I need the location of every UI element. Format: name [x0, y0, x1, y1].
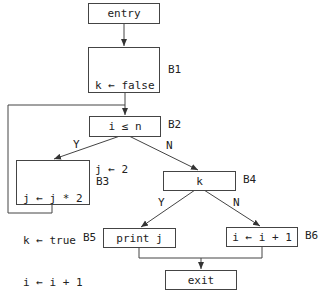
node-b1-label: B1 [168, 63, 181, 76]
node-b6: i ← i + 1 [226, 227, 298, 247]
node-b5: print j [103, 228, 176, 248]
node-b1: k ← false i ← 1 j ← 2 [88, 47, 160, 93]
node-b2-label: B2 [168, 118, 181, 131]
edge-label-b2-yes: Y [73, 138, 80, 151]
node-b4-text: k [196, 175, 203, 188]
edge-b4-b6 [204, 190, 260, 226]
node-entry: entry [88, 3, 160, 24]
b3-line-1: j ← j * 2 [23, 192, 89, 206]
b3-line-3: i ← i + 1 [23, 276, 89, 290]
node-b4-label: B4 [243, 173, 256, 186]
node-b2: i ≤ n [89, 116, 161, 137]
node-entry-text: entry [107, 7, 140, 20]
node-b5-label: B5 [83, 231, 96, 244]
node-b2-text: i ≤ n [108, 120, 141, 133]
node-b6-text: i ← i + 1 [232, 231, 292, 244]
edge-label-b4-yes: Y [158, 196, 165, 209]
node-b3-label: B3 [96, 175, 109, 188]
node-exit: exit [165, 270, 237, 290]
b3-line-2: k ← true [23, 234, 89, 248]
node-b3: j ← j * 2 k ← true i ← i + 1 [16, 160, 90, 205]
node-exit-text: exit [188, 274, 215, 287]
b1-line-1: k ← false [95, 79, 159, 93]
node-b5-text: print j [116, 232, 162, 245]
edge-label-b4-no: N [233, 196, 240, 209]
edge-label-b2-no: N [166, 139, 173, 152]
edge-b4-b5 [141, 190, 195, 227]
node-b6-label: B6 [305, 229, 318, 242]
node-b4: k [163, 171, 236, 191]
